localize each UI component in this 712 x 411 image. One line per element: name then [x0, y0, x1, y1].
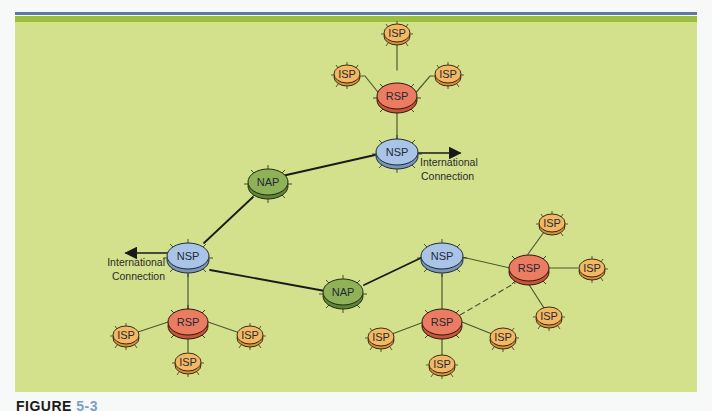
nsp-node-top[interactable]: NSP [372, 135, 422, 173]
node-label: ISP [494, 331, 512, 343]
node-label: RSP [431, 316, 454, 328]
link-rsp-isp [138, 322, 168, 332]
isp-node[interactable]: ISP [536, 211, 568, 236]
node-label: NAP [332, 286, 355, 298]
isp-node[interactable]: ISP [237, 323, 266, 350]
isp-node[interactable]: ISP [331, 62, 360, 89]
international-label-line2: Connection [112, 270, 165, 282]
isp-node[interactable]: ISP [381, 21, 413, 46]
nsp-node-right[interactable]: NSP [417, 239, 467, 277]
link-nsp-nap [210, 270, 325, 291]
international-label-line1: International [107, 256, 165, 268]
link-rsp-isp [528, 283, 544, 308]
link-rsp-rsp-dashed [460, 283, 515, 315]
node-label: RSP [177, 316, 200, 328]
link-rsp-isp [528, 232, 544, 254]
node-label: RSP [518, 262, 541, 274]
node-label: ISP [388, 27, 406, 39]
isp-node[interactable]: ISP [172, 353, 204, 377]
link-rsp-isp [392, 322, 424, 334]
node-label: ISP [117, 329, 135, 341]
isp-node[interactable]: ISP [579, 256, 608, 283]
link-nsp-rsp [462, 257, 510, 268]
rsp-node-right-lower[interactable]: RSP [422, 309, 462, 339]
node-label: NSP [177, 250, 200, 262]
node-label: ISP [179, 356, 197, 368]
node-label: NAP [257, 176, 280, 188]
isp-node[interactable]: ISP [110, 323, 139, 350]
isp-node[interactable]: ISP [490, 328, 519, 352]
isp-node[interactable]: ISP [435, 62, 464, 89]
link-nap-nsp [364, 256, 425, 285]
caption-number: 5-3 [76, 398, 98, 411]
isp-node[interactable]: ISP [426, 355, 458, 379]
nap-node-lower[interactable]: NAP [319, 275, 367, 313]
isp-node[interactable]: ISP [365, 328, 394, 352]
international-label-line1: International [420, 156, 478, 168]
node-label: RSP [386, 90, 409, 102]
link-rsp-isp [208, 322, 237, 332]
node-label: ISP [543, 217, 561, 229]
nsp-node-left[interactable]: NSP [163, 239, 213, 277]
link-nsp-nap [204, 197, 253, 243]
rsp-node-top[interactable]: RSP [373, 83, 421, 113]
nap-node-upper[interactable]: NAP [244, 165, 292, 203]
link-nap-nsp [282, 155, 375, 176]
network-hierarchy-diagram: NSP NSP NSP NAP NAP RSP RSP [0, 0, 712, 411]
node-label: ISP [433, 358, 451, 370]
international-label-line2: Connection [421, 170, 474, 182]
figure-caption: FIGURE 5-3 [16, 398, 98, 411]
node-label: ISP [439, 68, 457, 80]
node-label: ISP [372, 331, 390, 343]
rsp-node-left[interactable]: RSP [168, 305, 208, 339]
caption-prefix: FIGURE [16, 398, 72, 411]
rsp-node-right-upper[interactable]: RSP [509, 255, 549, 285]
node-label: NSP [431, 250, 454, 262]
node-label: ISP [583, 262, 601, 274]
node-label: ISP [241, 329, 259, 341]
node-label: ISP [338, 68, 356, 80]
node-label: NSP [386, 146, 409, 158]
node-label: ISP [540, 310, 558, 322]
link-rsp-isp [462, 322, 492, 334]
isp-node[interactable]: ISP [533, 307, 565, 331]
